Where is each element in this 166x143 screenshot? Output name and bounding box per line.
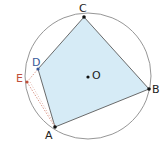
point-c bbox=[82, 15, 86, 19]
point-o bbox=[86, 75, 89, 78]
point-b bbox=[147, 87, 151, 91]
label-o: O bbox=[92, 69, 101, 82]
geometry-diagram: A B C D E O bbox=[0, 0, 166, 143]
label-a: A bbox=[45, 129, 53, 142]
point-a bbox=[53, 125, 57, 129]
label-b: B bbox=[152, 83, 160, 96]
label-e: E bbox=[16, 72, 23, 85]
point-e bbox=[25, 80, 28, 83]
label-d: D bbox=[32, 56, 40, 69]
dashed-line-ed bbox=[27, 69, 38, 82]
label-c: C bbox=[79, 2, 87, 15]
